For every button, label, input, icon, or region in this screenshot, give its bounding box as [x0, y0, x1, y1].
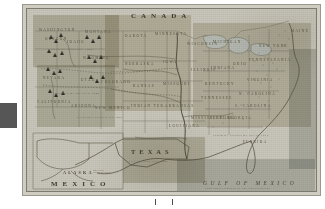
map-linework — [27, 9, 317, 192]
tick-right-visible — [172, 199, 173, 205]
plate-caption: Territorial Growth of the United States — [205, 187, 270, 190]
screenshot-root: CANADA MEXICO TEXAS GULF OF MEXICO ALASK… — [0, 0, 325, 209]
map-plate: CANADA MEXICO TEXAS GULF OF MEXICO ALASK… — [22, 4, 321, 196]
tick-left-visible — [155, 199, 156, 205]
map-plate-inner: CANADA MEXICO TEXAS GULF OF MEXICO ALASK… — [26, 8, 317, 192]
grey-overlay-block — [0, 103, 17, 128]
